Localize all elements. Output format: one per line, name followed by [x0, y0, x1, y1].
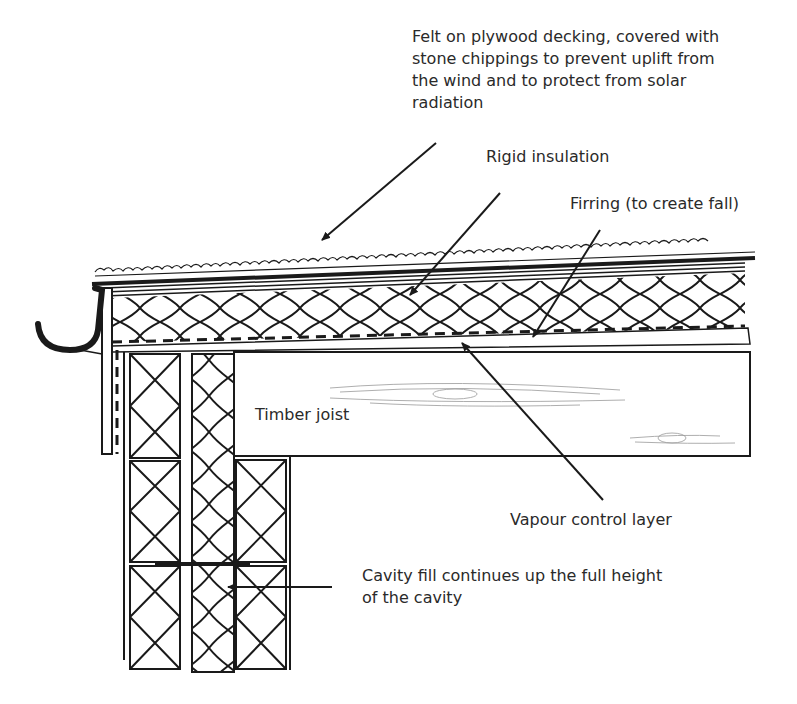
wood-grain — [330, 383, 735, 443]
rigid-insulation-label: Rigid insulation — [486, 146, 609, 168]
gutter — [38, 288, 102, 350]
firring-label: Firring (to create fall) — [570, 193, 739, 215]
felt-label: Felt on plywood decking, covered with st… — [412, 26, 719, 114]
outer-leaf-blockwork — [130, 354, 180, 669]
fascia-board — [102, 288, 112, 454]
timber-joist-label: Timber joist — [255, 404, 349, 426]
vapour-control-label: Vapour control layer — [510, 509, 672, 531]
cavity-fill — [192, 354, 234, 672]
cavity-fill-label: Cavity fill continues up the full height… — [362, 565, 662, 609]
